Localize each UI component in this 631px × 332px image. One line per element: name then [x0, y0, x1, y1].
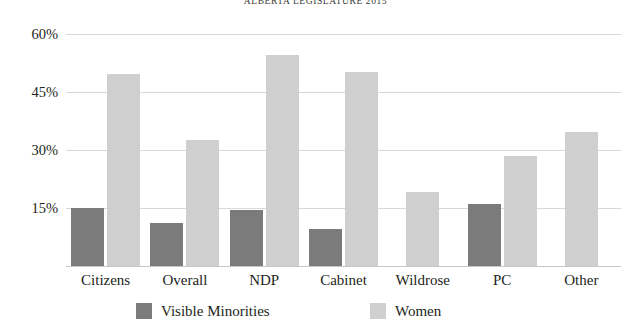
bar-pc-women — [504, 156, 537, 266]
y-axis-tick-label: 30% — [2, 143, 58, 158]
gridline-60 — [66, 34, 621, 35]
x-axis-label-other: Other — [542, 270, 621, 290]
bar-ndp-women — [266, 55, 299, 266]
bar-wildrose-women — [406, 192, 439, 266]
x-axis-label-ndp: NDP — [225, 270, 304, 290]
axis-baseline — [66, 266, 621, 267]
bar-citizens-women — [107, 74, 140, 266]
bar-other-women — [565, 132, 598, 266]
x-axis-label-citizens: Citizens — [66, 270, 145, 290]
bar-overall-women — [186, 140, 219, 266]
bar-citizens-visible-minorities — [71, 208, 104, 266]
bar-pc-visible-minorities — [468, 204, 501, 266]
bar-ndp-visible-minorities — [230, 210, 263, 266]
gridline-30 — [66, 150, 621, 151]
y-axis-tick-label: 60% — [2, 27, 58, 42]
legend-label: Women — [395, 301, 441, 321]
legend-label: Visible Minorities — [161, 301, 270, 321]
bar-cabinet-women — [345, 72, 378, 266]
x-axis-label-wildrose: Wildrose — [383, 270, 462, 290]
bar-cabinet-visible-minorities — [309, 229, 342, 266]
legend-item-women[interactable]: Women — [370, 300, 441, 322]
legend-swatch-icon — [136, 303, 152, 319]
y-axis: 15%30%45%60% — [0, 22, 58, 266]
x-axis-label-pc: PC — [462, 270, 541, 290]
y-axis-tick-label: 45% — [2, 85, 58, 100]
legend-item-visible-minorities[interactable]: Visible Minorities — [136, 300, 270, 322]
y-axis-tick-label: 15% — [2, 201, 58, 216]
legend-swatch-icon — [370, 303, 386, 319]
x-axis-label-overall: Overall — [145, 270, 224, 290]
gridline-15 — [66, 208, 621, 209]
chart-legend: Visible MinoritiesWomen — [0, 300, 631, 328]
bar-chart: ALBERTA LEGISLATURE 2015 15%30%45%60% Ci… — [0, 0, 631, 332]
chart-title: ALBERTA LEGISLATURE 2015 — [0, 0, 631, 6]
plot-area — [66, 22, 621, 266]
bar-overall-visible-minorities — [150, 223, 183, 266]
x-axis-label-cabinet: Cabinet — [304, 270, 383, 290]
x-axis: CitizensOverallNDPCabinetWildrosePCOther — [66, 270, 621, 294]
gridline-45 — [66, 92, 621, 93]
